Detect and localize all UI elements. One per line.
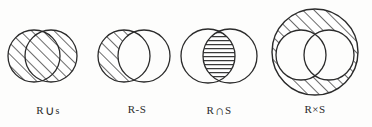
figure-product: R×S xyxy=(258,0,372,127)
caption-union: R∪s xyxy=(0,103,96,119)
difference-shaded-region xyxy=(92,0,182,100)
figure-intersection: R∩S xyxy=(176,0,262,127)
figure-panel: R∪s R-S xyxy=(0,0,372,127)
caption-difference-suffix: S xyxy=(140,103,147,115)
figure-union: R∪s xyxy=(0,0,96,127)
caption-product-operator: × xyxy=(312,103,319,115)
caption-product: R×S xyxy=(258,103,372,115)
caption-product-suffix: S xyxy=(319,103,326,115)
product-annulus-shaded-region xyxy=(258,0,372,104)
caption-difference: R-S xyxy=(92,103,182,115)
caption-union-operator: ∪ xyxy=(44,103,55,118)
figure-difference: R-S xyxy=(92,0,182,127)
caption-union-prefix: R xyxy=(36,104,44,116)
caption-difference-prefix: R xyxy=(128,103,136,115)
caption-intersection: R∩S xyxy=(176,103,262,119)
caption-union-suffix: s xyxy=(55,105,59,116)
caption-intersection-operator: ∩ xyxy=(214,103,225,118)
caption-intersection-suffix: S xyxy=(225,104,232,116)
